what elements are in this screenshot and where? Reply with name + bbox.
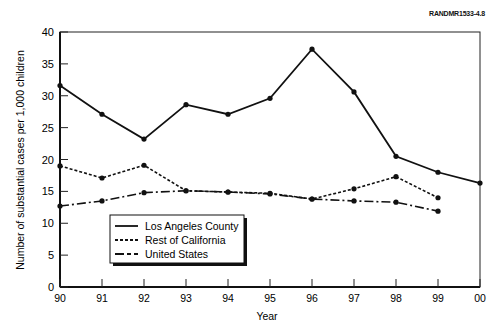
- data-point: [351, 186, 356, 191]
- data-point: [435, 195, 440, 200]
- data-point: [309, 47, 314, 52]
- legend-label: United States: [145, 248, 208, 260]
- data-point: [99, 198, 104, 203]
- data-point: [225, 112, 230, 117]
- series-line: [60, 49, 480, 183]
- data-point: [141, 137, 146, 142]
- data-point: [57, 163, 62, 168]
- data-point: [309, 196, 314, 201]
- data-point: [351, 89, 356, 94]
- data-point: [225, 189, 230, 194]
- series-line: [60, 165, 438, 199]
- data-point: [57, 203, 62, 208]
- data-point: [435, 209, 440, 214]
- data-point: [183, 102, 188, 107]
- y-tick-label: 20: [42, 154, 54, 166]
- legend-label: Rest of California: [145, 234, 226, 246]
- x-axis: 9091929394959697989900: [54, 279, 486, 304]
- y-axis-label: Number of substantial cases per 1,000 ch…: [14, 50, 26, 270]
- data-point: [99, 112, 104, 117]
- data-point: [183, 188, 188, 193]
- y-tick-label: 35: [42, 58, 54, 70]
- x-axis-label: Year: [256, 310, 278, 322]
- data-point: [267, 96, 272, 101]
- y-tick-label: 15: [42, 185, 54, 197]
- x-tick-label: 98: [390, 292, 402, 304]
- legend: Los Angeles CountyRest of CaliforniaUnit…: [110, 215, 247, 266]
- x-tick-label: 99: [432, 292, 444, 304]
- x-tick-label: 92: [138, 292, 150, 304]
- x-tick-label: 94: [222, 292, 234, 304]
- series-line: [60, 191, 438, 211]
- line-chart: 0510152025303540 9091929394959697989900 …: [0, 0, 497, 334]
- x-tick-label: 93: [180, 292, 192, 304]
- data-point: [57, 83, 62, 88]
- y-tick-label: 40: [42, 26, 54, 38]
- data-point: [393, 200, 398, 205]
- data-point: [435, 170, 440, 175]
- data-point: [99, 175, 104, 180]
- x-tick-label: 00: [474, 292, 486, 304]
- series-lines: [57, 47, 482, 214]
- y-tick-label: 5: [48, 249, 54, 261]
- y-tick-label: 25: [42, 122, 54, 134]
- data-point: [477, 180, 482, 185]
- legend-label: Los Angeles County: [145, 220, 239, 232]
- x-tick-label: 90: [54, 292, 66, 304]
- data-point: [267, 191, 272, 196]
- x-tick-label: 96: [306, 292, 318, 304]
- x-tick-label: 97: [348, 292, 360, 304]
- y-tick-label: 30: [42, 90, 54, 102]
- data-point: [393, 174, 398, 179]
- data-point: [393, 154, 398, 159]
- x-tick-label: 95: [264, 292, 276, 304]
- y-tick-label: 10: [42, 217, 54, 229]
- data-point: [141, 163, 146, 168]
- data-point: [351, 198, 356, 203]
- data-point: [141, 190, 146, 195]
- y-tick-label: 0: [48, 281, 54, 293]
- y-axis: 0510152025303540: [42, 26, 68, 293]
- x-tick-label: 91: [96, 292, 108, 304]
